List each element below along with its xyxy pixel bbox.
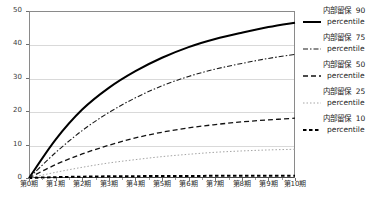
x-tick-mark <box>162 178 163 181</box>
x-tick-mark <box>268 178 269 181</box>
chart-container: 01020304050 第0期第1期第2期第3期第4期第5期第6期第7期第8期第… <box>0 0 381 202</box>
x-tick-mark <box>82 178 83 181</box>
legend-item[interactable]: 内部留保 10percentile <box>303 114 381 136</box>
y-axis: 01020304050 <box>2 0 24 202</box>
legend-swatch-25 <box>303 91 321 97</box>
x-tick-mark-minor <box>229 178 230 180</box>
legend-label-main: 内部留保 90 <box>323 6 365 15</box>
legend-label: 内部留保 90percentile <box>323 6 365 27</box>
x-tick-label: 第0期 <box>20 181 38 188</box>
legend-label: 内部留保 25percentile <box>323 87 365 108</box>
gridline <box>30 79 294 80</box>
x-axis: 第0期第1期第2期第3期第4期第5期第6期第7期第8期第9期第10期 <box>0 181 381 195</box>
x-tick-label: 第6期 <box>179 181 197 188</box>
y-tick-label: 10 <box>2 141 22 148</box>
legend-label: 内部留保 10percentile <box>323 114 365 135</box>
legend-label-unit: percentile <box>323 125 365 136</box>
legend-label-unit: percentile <box>323 44 365 55</box>
x-tick-label: 第5期 <box>153 181 171 188</box>
x-tick-mark-minor <box>202 178 203 180</box>
x-tick-label: 第3期 <box>100 181 118 188</box>
x-tick-label: 第7期 <box>206 181 224 188</box>
gridline <box>30 146 294 147</box>
legend-swatch-10 <box>303 118 321 124</box>
x-tick-mark-minor <box>175 178 176 180</box>
legend-label: 内部留保 50percentile <box>323 60 365 81</box>
legend-swatch-50 <box>303 64 321 70</box>
legend-label-main: 内部留保 25 <box>323 87 365 96</box>
x-tick-mark-minor <box>42 178 43 180</box>
x-tick-mark-minor <box>255 178 256 180</box>
x-tick-mark-minor <box>69 178 70 180</box>
y-tick-mark <box>26 78 29 79</box>
x-tick-mark <box>295 178 296 181</box>
x-tick-label: 第1期 <box>46 181 64 188</box>
x-tick-label: 第10期 <box>284 181 307 188</box>
chart-legend: 内部留保 90percentile内部留保 75percentile内部留保 5… <box>303 6 381 141</box>
legend-label-main: 内部留保 75 <box>323 33 365 42</box>
x-tick-mark <box>215 178 216 181</box>
x-tick-mark <box>56 178 57 181</box>
legend-swatch-75 <box>303 37 321 43</box>
x-tick-label: 第8期 <box>233 181 251 188</box>
x-tick-mark <box>189 178 190 181</box>
legend-label-unit: percentile <box>323 17 365 28</box>
legend-label-main: 内部留保 50 <box>323 60 365 69</box>
y-tick-label: 50 <box>2 7 22 14</box>
x-tick-label: 第9期 <box>259 181 277 188</box>
legend-item[interactable]: 内部留保 50percentile <box>303 60 381 82</box>
legend-label-main: 内部留保 10 <box>323 114 365 123</box>
gridline <box>30 45 294 46</box>
y-tick-mark <box>26 145 29 146</box>
legend-label: 内部留保 75percentile <box>323 33 365 54</box>
gridline <box>30 112 294 113</box>
y-tick-mark <box>26 111 29 112</box>
x-tick-mark-minor <box>149 178 150 180</box>
y-tick-mark <box>26 11 29 12</box>
x-tick-label: 第2期 <box>73 181 91 188</box>
x-tick-mark <box>242 178 243 181</box>
legend-item[interactable]: 内部留保 25percentile <box>303 87 381 109</box>
y-tick-mark <box>26 44 29 45</box>
y-tick-label: 20 <box>2 107 22 114</box>
x-tick-mark <box>109 178 110 181</box>
x-tick-mark-minor <box>122 178 123 180</box>
legend-label-unit: percentile <box>323 71 365 82</box>
legend-item[interactable]: 内部留保 75percentile <box>303 33 381 55</box>
x-tick-mark <box>135 178 136 181</box>
legend-label-unit: percentile <box>323 98 365 109</box>
x-tick-label: 第4期 <box>126 181 144 188</box>
y-tick-label: 40 <box>2 40 22 47</box>
legend-swatch-90 <box>303 10 321 16</box>
x-tick-mark <box>29 178 30 181</box>
legend-item[interactable]: 内部留保 90percentile <box>303 6 381 28</box>
x-tick-mark-minor <box>282 178 283 180</box>
plot-area <box>29 11 295 178</box>
x-tick-mark-minor <box>96 178 97 180</box>
y-tick-label: 30 <box>2 74 22 81</box>
